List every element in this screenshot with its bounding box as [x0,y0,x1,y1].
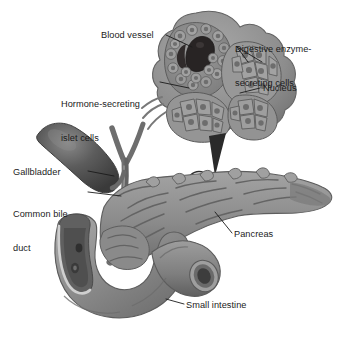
label-digestive-line1: Digestive enzyme- [235,44,311,55]
label-hormone-line2: islet cells [61,133,140,144]
label-nucleus: Nucleus [263,83,297,94]
label-blood-vessel: Blood vessel [101,30,154,41]
label-small-intestine: Small intestine [186,300,247,311]
label-common-bile-duct: Common bile duct [13,187,68,265]
blood-vessel-highlight [196,42,204,48]
label-hormone-line1: Hormone-secreting [61,99,140,110]
label-gallbladder: Gallbladder [13,167,61,178]
label-hormone-secreting-islet-cells: Hormone-secreting islet cells [61,77,140,155]
major-duodenal-papilla [76,244,83,253]
leader-small-intestine [166,299,184,304]
magnifier-wedge [209,133,226,176]
label-common-bile-line2: duct [13,243,68,254]
pancreas [100,168,332,270]
label-pancreas: Pancreas [234,229,273,240]
label-common-bile-line1: Common bile [13,209,68,220]
papilla-inner-opening [73,266,77,271]
